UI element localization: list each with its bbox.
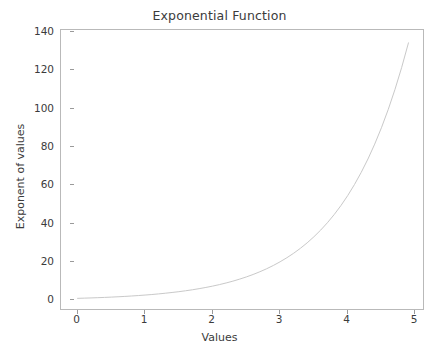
x-tick-label: 5 — [394, 313, 434, 325]
y-axis-label: Exponent of values — [14, 97, 27, 257]
y-tick-mark — [70, 146, 74, 147]
x-tick-label: 4 — [327, 313, 367, 325]
y-tick-mark — [70, 184, 74, 185]
plot-area — [60, 29, 424, 310]
y-tick-mark — [70, 261, 74, 262]
x-tick-label: 0 — [57, 313, 97, 325]
y-tick-mark — [70, 223, 74, 224]
x-tick-label: 2 — [192, 313, 232, 325]
y-tick-mark — [70, 31, 74, 32]
y-tick-mark — [70, 69, 74, 70]
x-tick-mark — [144, 310, 145, 314]
y-tick-mark — [70, 108, 74, 109]
x-tick-label: 1 — [124, 313, 164, 325]
x-tick-mark — [77, 310, 78, 314]
x-tick-mark — [414, 310, 415, 314]
y-tick-label: 20 — [20, 255, 54, 267]
x-tick-mark — [279, 310, 280, 314]
chart-figure: Exponential Function 020406080100120140 … — [0, 0, 439, 357]
chart-title: Exponential Function — [0, 8, 439, 23]
x-axis-label: Values — [0, 331, 439, 344]
y-tick-mark — [70, 299, 74, 300]
y-tick-label: 140 — [20, 25, 54, 37]
x-tick-mark — [347, 310, 348, 314]
exponential-curve-svg — [61, 30, 425, 311]
x-tick-mark — [212, 310, 213, 314]
y-tick-label: 0 — [20, 293, 54, 305]
series-exp-line — [78, 43, 409, 298]
y-tick-label: 120 — [20, 63, 54, 75]
x-tick-label: 3 — [259, 313, 299, 325]
